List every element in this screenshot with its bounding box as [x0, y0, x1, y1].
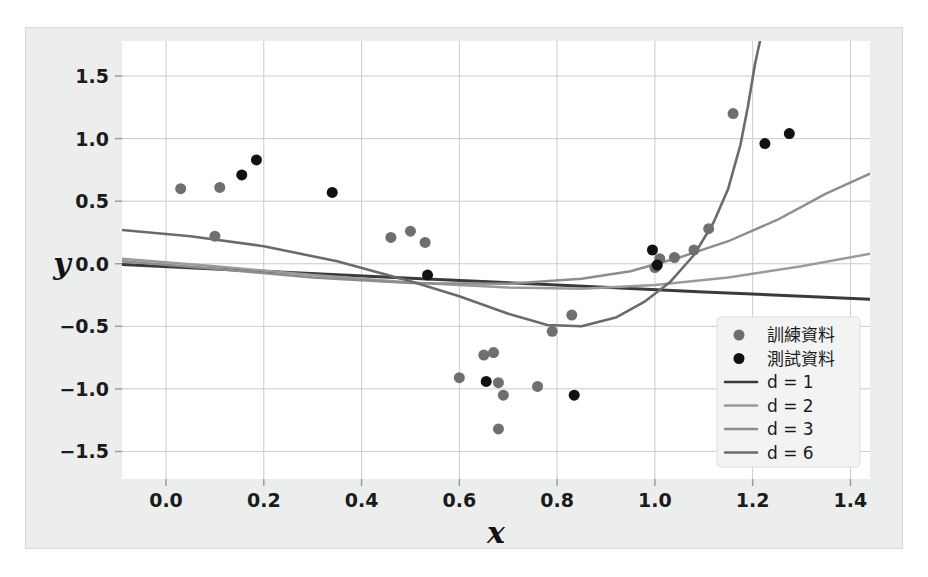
- data-point: [493, 377, 504, 388]
- data-point: [236, 169, 247, 180]
- y-axis-title: y: [52, 246, 73, 281]
- xtick-label: 0.6: [442, 489, 476, 511]
- ytick-label: −1.0: [59, 378, 109, 400]
- data-point: [703, 223, 714, 234]
- data-point: [209, 231, 220, 242]
- data-point: [454, 372, 465, 383]
- legend-label: d = 3: [767, 419, 814, 439]
- ytick-label: 1.5: [75, 65, 109, 87]
- data-point: [498, 390, 509, 401]
- data-point: [759, 138, 770, 149]
- data-point: [493, 423, 504, 434]
- xtick-label: 0.2: [247, 489, 281, 511]
- xtick-label: 0.8: [540, 489, 574, 511]
- data-point: [420, 237, 431, 248]
- data-point: [422, 270, 433, 281]
- legend-label: 訓練資料: [767, 325, 835, 345]
- ytick-label: −0.5: [59, 315, 109, 337]
- xtick-label: 1.2: [736, 489, 770, 511]
- legend-marker: [734, 330, 745, 341]
- legend-label: 測試資料: [767, 349, 835, 369]
- data-point: [784, 128, 795, 139]
- xtick-label: 1.0: [638, 489, 672, 511]
- xtick-label: 1.4: [834, 489, 868, 511]
- data-point: [689, 244, 700, 255]
- scatter-chart: 0.00.20.40.60.81.01.21.4−1.5−1.0−0.50.00…: [0, 0, 928, 577]
- legend-marker: [734, 353, 745, 364]
- ytick-label: 0.5: [75, 190, 109, 212]
- data-point: [569, 390, 580, 401]
- ytick-label: 1.0: [75, 128, 109, 150]
- data-point: [481, 376, 492, 387]
- legend: 訓練資料測試資料d = 1d = 2d = 3d = 6: [717, 317, 860, 467]
- data-point: [385, 232, 396, 243]
- data-point: [327, 187, 338, 198]
- data-point: [652, 260, 663, 271]
- xtick-label: 0.4: [345, 489, 379, 511]
- xtick-label: 0.0: [149, 489, 183, 511]
- legend-label: d = 1: [767, 372, 814, 392]
- data-point: [175, 183, 186, 194]
- figure-root: 0.00.20.40.60.81.01.21.4−1.5−1.0−0.50.00…: [0, 0, 928, 577]
- data-point: [405, 226, 416, 237]
- data-point: [478, 350, 489, 361]
- data-point: [547, 326, 558, 337]
- data-point: [647, 244, 658, 255]
- data-point: [214, 182, 225, 193]
- data-point: [728, 108, 739, 119]
- data-point: [532, 381, 543, 392]
- x-axis-title: x: [486, 515, 506, 550]
- legend-label: d = 2: [767, 396, 814, 416]
- ytick-label: −1.5: [59, 440, 109, 462]
- data-point: [669, 252, 680, 263]
- data-point: [251, 154, 262, 165]
- ytick-label: 0.0: [75, 253, 109, 275]
- data-point: [566, 310, 577, 321]
- legend-label: d = 6: [767, 443, 814, 463]
- data-point: [488, 347, 499, 358]
